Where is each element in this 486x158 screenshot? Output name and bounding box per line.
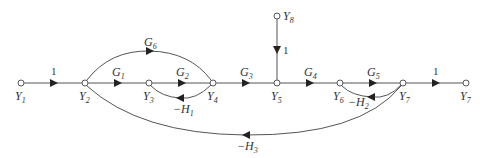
gain-label: G3 [240, 65, 253, 81]
node-labels: Y1 Y2 Y3 Y4 Y5 Y6 Y7 Y7 Y8 [15, 9, 472, 105]
node-label: Y1 [15, 89, 26, 105]
node-y7-output [463, 80, 469, 86]
node-label: Y4 [207, 89, 218, 105]
node-y3 [146, 80, 152, 86]
arrowheads [50, 46, 440, 139]
arrow-left-icon [176, 94, 184, 102]
node-label: Y2 [79, 89, 90, 105]
gain-label: 1 [433, 65, 439, 77]
node-y4 [210, 80, 216, 86]
node-label: Y3 [143, 89, 154, 105]
node-y5 [274, 80, 280, 86]
gain-label: −H1 [173, 102, 194, 118]
gain-label: G4 [304, 65, 317, 81]
gain-labels: 1 G1 G2 −H1 G6 G3 1 G4 G5 −H2 1 −H3 [51, 35, 439, 155]
node-y6 [337, 80, 343, 86]
edge-y2-y4-g6 [87, 51, 211, 80]
arrow-right-icon [50, 79, 58, 87]
gain-label: G6 [144, 35, 157, 51]
gain-label: −H2 [348, 95, 369, 111]
gain-label: −H3 [237, 139, 258, 155]
node-y7 [400, 80, 406, 86]
arrow-down-icon [273, 46, 281, 54]
node-label: Y8 [283, 9, 294, 25]
arrow-right-icon [432, 79, 440, 87]
gain-label: G1 [112, 65, 125, 81]
node-label: Y6 [333, 89, 344, 105]
gain-label: 1 [283, 44, 289, 56]
arrow-left-icon [242, 131, 250, 139]
node-y2 [82, 80, 88, 86]
node-y1 [18, 80, 24, 86]
signal-flow-graph: Y1 Y2 Y3 Y4 Y5 Y6 Y7 Y7 Y8 1 G1 G2 −H1 G… [0, 0, 486, 158]
gain-label: 1 [51, 65, 57, 77]
arrow-left-icon [367, 93, 375, 101]
node-label: Y5 [271, 89, 282, 105]
node-label: Y7 [460, 89, 472, 105]
node-label: Y7 [399, 89, 411, 105]
node-y8 [274, 13, 280, 19]
gain-label: G5 [367, 65, 380, 81]
gain-label: G2 [176, 65, 189, 81]
